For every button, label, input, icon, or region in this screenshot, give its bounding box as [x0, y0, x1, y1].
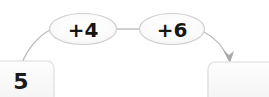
connector-op2-to-result — [204, 32, 229, 60]
arrowhead-icon — [223, 50, 234, 63]
function-machine-diagram: 5 +4 +6 — [0, 0, 269, 97]
connector-start-to-op1 — [22, 30, 50, 63]
diagram-canvas: 5 +4 +6 — [0, 0, 269, 97]
start-box-value: 5 — [13, 69, 28, 94]
result-box[interactable] — [208, 62, 269, 97]
operation-label-2: +6 — [157, 18, 188, 42]
operation-label-1: +4 — [68, 18, 99, 42]
